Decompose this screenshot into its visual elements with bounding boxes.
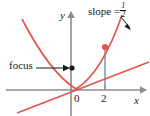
x-tick-label-two: 2 — [101, 93, 107, 104]
x-axis-label: x — [134, 95, 139, 106]
x-tick-label-origin: 0 — [74, 93, 80, 104]
slope-annotation-text: slope = — [88, 5, 120, 17]
slope-fraction: 12 — [120, 2, 126, 20]
x-axis-arrowhead — [140, 86, 147, 94]
figure-parabola-tangent-focus: slope =12 focus y x 0 2 — [0, 0, 150, 116]
slope-leader-arrowhead — [125, 24, 132, 31]
tangent-line — [17, 62, 149, 113]
slope-annotation-label: slope =12 — [88, 2, 126, 20]
focus-leader — [36, 65, 70, 71]
tangency-point — [102, 44, 108, 50]
focus-point — [69, 65, 74, 70]
focus-leader-arrowhead — [63, 65, 70, 71]
slope-fraction-denominator: 2 — [120, 11, 126, 19]
y-axis-label: y — [60, 10, 65, 21]
y-axis-arrowhead — [67, 11, 75, 18]
focus-annotation-label: focus — [9, 60, 33, 71]
